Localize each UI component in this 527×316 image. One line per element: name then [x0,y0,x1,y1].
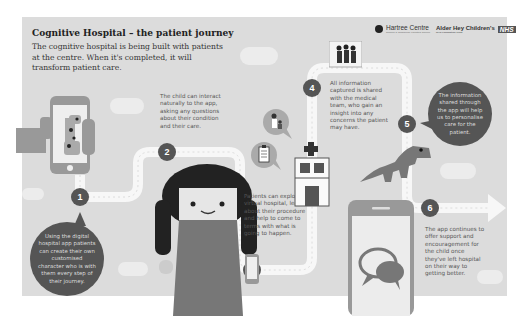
step-4-marker: 4 [303,79,321,97]
dinosaur-illustration [355,138,433,186]
hospital-building-icon [294,142,330,208]
doctor-bubble-icon [262,108,294,140]
step-2-text: The child can interact naturally to the … [160,93,224,130]
hartree-sub: Science & Technology Facilities Council [386,31,430,34]
step-2-marker: 2 [158,143,176,161]
step-4-text: All information captured is shared with … [330,80,388,132]
phone-chat-illustration [348,200,414,316]
step-5-bubble: The information shared through the app w… [428,82,492,146]
alder-hey-logo: Alder Hey Children'sNHS Foundation Trust… [436,25,516,34]
partner-logos: Hartree CentreScience & Technology Facil… [375,24,516,34]
medical-team-icon [329,41,362,71]
step-6-text: The app continues to offer support and e… [425,226,487,278]
clipboard-bubble-icon [250,141,282,173]
step-1-text: Using the digital hospital app patients … [38,233,96,285]
alder-hey-sub: NHS Foundation Trust [436,31,495,34]
nhs-badge: NHS [498,26,516,33]
step-5-marker: 5 [398,115,416,133]
hartree-label: Hartree Centre [386,24,429,31]
step-5-text: The information shared through the app w… [436,92,484,136]
step-6-marker: 6 [421,199,439,217]
hartree-icon [375,25,383,33]
phone-giraffe-illustration [16,93,101,175]
child-illustration [145,160,265,316]
intro-text: The cognitive hospital is being built wi… [32,42,232,74]
step-1-bubble: Using the digital hospital app patients … [30,222,104,296]
arrow-right-icon [488,194,506,222]
step-1-marker: 1 [71,188,89,206]
hartree-logo: Hartree CentreScience & Technology Facil… [375,24,430,34]
alder-hey-label: Alder Hey Children's [436,25,495,31]
page-title: Cognitive Hospital – the patient journey [32,28,233,38]
